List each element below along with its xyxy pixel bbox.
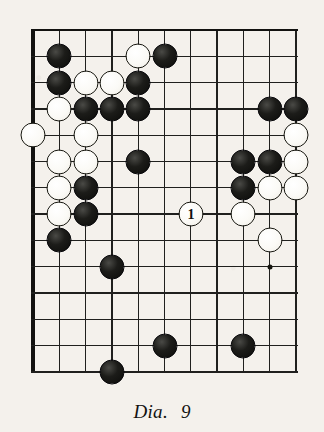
stone-black[interactable] <box>47 70 72 95</box>
stone-black[interactable] <box>231 149 256 174</box>
stone-white[interactable] <box>284 175 309 200</box>
stone-black[interactable] <box>73 175 98 200</box>
stone-black[interactable] <box>284 96 309 121</box>
grid-line-horizontal <box>31 135 297 136</box>
stone-black[interactable] <box>231 175 256 200</box>
stone-black[interactable] <box>99 254 124 279</box>
stone-black[interactable] <box>231 333 256 358</box>
go-board[interactable]: 1 <box>0 0 324 392</box>
diagram-page: 1 Dia. 9 <box>0 0 324 432</box>
grid-line-horizontal <box>31 29 297 32</box>
stone-white[interactable] <box>284 123 309 148</box>
stone-black[interactable] <box>126 96 151 121</box>
caption-number: 9 <box>181 401 191 423</box>
stone-black[interactable] <box>126 149 151 174</box>
stone-black[interactable] <box>152 44 177 69</box>
stone-white[interactable] <box>284 149 309 174</box>
grid-line-horizontal <box>31 319 297 320</box>
stone-white[interactable] <box>47 175 72 200</box>
stone-black[interactable] <box>99 96 124 121</box>
grid-line-vertical <box>216 29 217 374</box>
stone-white[interactable] <box>47 96 72 121</box>
stone-black[interactable] <box>257 149 282 174</box>
stone-white[interactable] <box>21 123 46 148</box>
grid-line-horizontal <box>31 292 297 293</box>
stone-black[interactable] <box>126 70 151 95</box>
stone-white[interactable] <box>73 70 98 95</box>
stone-white[interactable] <box>257 228 282 253</box>
grid-line-horizontal <box>31 266 297 267</box>
stone-black[interactable] <box>47 44 72 69</box>
stone-black[interactable] <box>99 359 124 384</box>
caption-label: Dia. <box>134 401 168 423</box>
figure-caption: Dia. 9 <box>0 392 324 432</box>
stone-white[interactable] <box>126 44 151 69</box>
stone-white[interactable] <box>47 149 72 174</box>
stone-white-numbered[interactable]: 1 <box>178 202 203 227</box>
grid-line-vertical <box>31 29 34 374</box>
stone-white[interactable] <box>47 202 72 227</box>
stone-white[interactable] <box>73 123 98 148</box>
stone-black[interactable] <box>152 333 177 358</box>
stone-black[interactable] <box>47 228 72 253</box>
grid-line-vertical <box>269 29 270 374</box>
stone-black[interactable] <box>73 202 98 227</box>
stone-white[interactable] <box>73 149 98 174</box>
star-point <box>267 264 272 269</box>
stone-black[interactable] <box>257 96 282 121</box>
stone-white[interactable] <box>257 175 282 200</box>
grid-line-horizontal <box>31 371 297 372</box>
stone-white[interactable] <box>99 70 124 95</box>
grid-line-vertical <box>164 29 165 374</box>
stone-white[interactable] <box>231 202 256 227</box>
stone-black[interactable] <box>73 96 98 121</box>
stone-move-number: 1 <box>179 203 202 226</box>
grid-line-vertical <box>295 29 296 374</box>
